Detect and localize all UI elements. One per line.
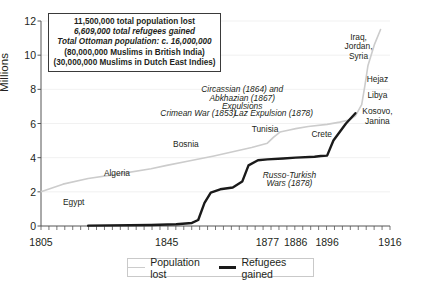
stat-line-4: (80,000,000 Muslims in British India) (51, 48, 218, 58)
x-tick-1805: 1805 (29, 236, 52, 248)
stat-line-1: 11,500,000 total population lost (51, 17, 218, 27)
legend-label-population-lost: Population lost (150, 256, 212, 280)
x-tick-1877: 1877 (256, 236, 279, 248)
annotation-tunisia: Tunisia (252, 125, 279, 134)
x-tick-1896: 1896 (315, 236, 338, 248)
legend-item-refugees-gained: Refugees gained (219, 256, 313, 280)
annotation-libya: Libya (367, 91, 387, 100)
y-tick-0: 0 (30, 220, 36, 232)
annotation-syria: Syria (349, 52, 368, 61)
stat-line-3: Total Ottoman population: c. 16,000,000 (51, 37, 218, 47)
y-tick-2: 2 (30, 186, 36, 198)
annotation-expulsions: Expulsions (222, 102, 263, 111)
y-axis-title: Millions (0, 53, 10, 92)
x-axis-tick-labels: 180518451877188618961916 (0, 236, 433, 252)
annotation-egypt: Egypt (63, 198, 84, 207)
x-tick-1916: 1916 (378, 236, 401, 248)
y-tick-4: 4 (30, 152, 36, 164)
annotation-bosnia: Bosnia (173, 140, 199, 149)
y-tick-6: 6 (30, 118, 36, 130)
legend-swatch-population-lost (128, 267, 145, 269)
annotation-algeria: Algeria (104, 169, 130, 178)
stat-line-5: (30,000,000 Muslims in Dutch East Indies… (51, 58, 218, 68)
legend-label-refugees-gained: Refugees gained (241, 256, 313, 280)
x-tick-1845: 1845 (155, 236, 178, 248)
annotation-wars-1878: Wars (1878) (266, 179, 312, 188)
legend-item-population-lost: Population lost (128, 256, 212, 280)
chart-container: 024681012 180518451877188618961916 Milli… (0, 0, 433, 284)
annotation-janina: Janina (365, 117, 390, 126)
chart-legend: Population lost Refugees gained (127, 258, 314, 277)
stat-line-2: 6,609,000 total refugees gained (51, 27, 218, 37)
summary-statistics-box: 11,500,000 total population lost 6,609,0… (48, 13, 221, 72)
annotation-hejaz: Hejaz (367, 75, 388, 84)
y-tick-12: 12 (24, 15, 36, 27)
y-tick-8: 8 (30, 83, 36, 95)
x-tick-1886: 1886 (284, 236, 307, 248)
legend-swatch-refugees-gained (219, 266, 236, 269)
annotation-crete: Crete (311, 130, 331, 139)
y-tick-10: 10 (24, 49, 36, 61)
